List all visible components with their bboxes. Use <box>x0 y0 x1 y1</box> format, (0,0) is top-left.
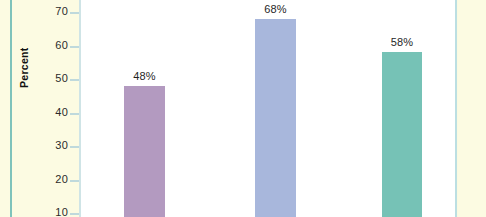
y-tick-mark <box>70 12 79 14</box>
bar-value-label: 58% <box>370 36 434 48</box>
y-tick-mark <box>70 46 79 48</box>
y-tick-label: 70 <box>34 5 68 19</box>
y-tick-label: 50 <box>34 72 68 86</box>
frame-rule-left <box>10 0 12 217</box>
bar <box>255 19 296 217</box>
bar-value-label: 48% <box>112 70 177 82</box>
y-tick-label: 20 <box>34 173 68 187</box>
frame-rule-right <box>455 0 457 217</box>
y-tick-label-text: 50 <box>40 72 68 84</box>
y-tick-label-text: 30 <box>40 139 68 151</box>
y-tick-label: 60 <box>34 39 68 53</box>
bar <box>382 52 422 217</box>
y-tick-mark <box>70 79 79 81</box>
y-tick-label: 40 <box>34 106 68 120</box>
y-axis-line <box>79 0 81 217</box>
y-tick-mark <box>70 146 79 148</box>
y-tick-label-text: 20 <box>40 173 68 185</box>
y-tick-label-text: 40 <box>40 106 68 118</box>
y-tick-mark <box>70 113 79 115</box>
y-tick-label-text: 10 <box>40 206 68 217</box>
bar <box>124 86 165 217</box>
y-axis-title: Percent <box>18 47 30 88</box>
bar-chart-figure: 70605040302010 Percent 48%68%58% <box>0 0 486 217</box>
bar-value-label: 68% <box>243 3 308 15</box>
y-tick-label-text: 60 <box>40 39 68 51</box>
y-tick-label: 30 <box>34 139 68 153</box>
page-margin-right <box>458 0 486 217</box>
y-tick-label: 10 <box>34 206 68 217</box>
y-tick-mark <box>70 213 79 215</box>
y-tick-mark <box>70 180 79 182</box>
y-tick-label-text: 70 <box>40 5 68 17</box>
